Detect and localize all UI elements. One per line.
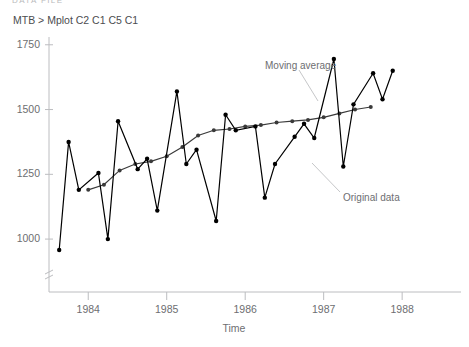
data-point — [391, 68, 395, 72]
moving-average-leader-line — [299, 70, 318, 101]
data-point — [118, 168, 122, 172]
data-point — [234, 128, 238, 132]
data-point — [380, 97, 384, 101]
x-tick-label: 1986 — [222, 303, 268, 315]
data-point — [371, 71, 375, 75]
y-tick-label: 1750 — [6, 38, 40, 50]
data-point — [341, 164, 345, 168]
x-axis-title: Time — [204, 322, 264, 334]
data-point — [306, 118, 310, 122]
y-tick-label: 1000 — [6, 232, 40, 244]
original-data-line — [59, 59, 393, 250]
data-point — [227, 127, 231, 131]
x-tick-marks — [88, 292, 402, 300]
data-point — [135, 167, 139, 171]
data-point — [106, 237, 110, 241]
data-point — [273, 162, 277, 166]
original-data-points — [57, 57, 395, 252]
data-point — [86, 188, 90, 192]
moving-average-line — [88, 107, 371, 190]
data-point — [194, 148, 198, 152]
data-point — [212, 128, 216, 132]
data-point — [57, 248, 61, 252]
data-point — [351, 102, 355, 106]
y-tick-label: 1500 — [6, 103, 40, 115]
data-point — [259, 123, 263, 127]
data-point — [77, 188, 81, 192]
data-point — [275, 121, 279, 125]
data-point — [102, 183, 106, 187]
data-point — [253, 124, 257, 128]
axes-group — [45, 37, 461, 300]
data-point — [322, 115, 326, 119]
data-point — [116, 119, 120, 123]
data-point — [292, 135, 296, 139]
data-point — [175, 89, 179, 93]
moving-average-annotation: Moving average — [265, 60, 336, 71]
data-point — [145, 157, 149, 161]
data-point — [149, 159, 153, 163]
x-tick-label: 1987 — [301, 303, 347, 315]
data-point — [369, 105, 373, 109]
y-tick-label: 1250 — [6, 167, 40, 179]
data-point — [290, 119, 294, 123]
data-point — [302, 122, 306, 126]
data-point — [66, 140, 70, 144]
data-point — [155, 208, 159, 212]
x-tick-label: 1984 — [65, 303, 111, 315]
x-tick-label: 1985 — [144, 303, 190, 315]
x-tick-label: 1988 — [379, 303, 425, 315]
data-point — [353, 108, 357, 112]
chart-canvas — [0, 0, 469, 347]
leader-lines — [299, 70, 340, 192]
data-point — [96, 171, 100, 175]
data-point — [312, 136, 316, 140]
data-point — [196, 133, 200, 137]
chart-screen: DATA FILE MTB > Mplot C2 C1 C5 C1 100012… — [0, 0, 469, 347]
original-data-leader-line — [312, 163, 340, 192]
data-point — [263, 195, 267, 199]
data-point — [214, 219, 218, 223]
original-data-annotation: Original data — [343, 192, 400, 203]
data-point — [223, 113, 227, 117]
data-point — [184, 162, 188, 166]
